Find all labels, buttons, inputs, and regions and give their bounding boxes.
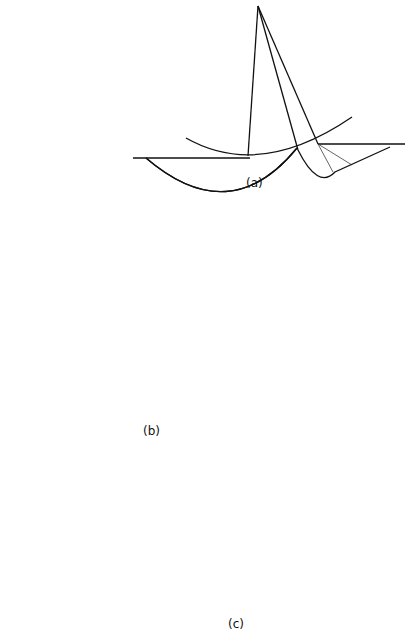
panel-a (133, 6, 405, 192)
panel-label-c: (c) (228, 617, 244, 631)
diagram-canvas (0, 0, 420, 637)
panel-label-b: (b) (143, 424, 160, 438)
panel-label-a: (a) (246, 176, 263, 190)
